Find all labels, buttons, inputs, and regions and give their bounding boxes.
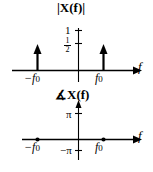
magnitude-impulse-negative-f0-arrowhead [34, 44, 42, 54]
magnitude-xtick-negative-f0-text: −f [24, 71, 35, 85]
magnitude-x-axis-label: f [138, 60, 142, 73]
magnitude-plot-graphics [0, 0, 153, 172]
magnitude-ytick-half-denominator: 2 [64, 46, 71, 54]
magnitude-impulse-positive-f0-arrowhead [100, 44, 108, 54]
magnitude-ytick-half-label: 1 2 [64, 37, 71, 55]
magnitude-ytick-one-label: 1 [65, 25, 71, 36]
phase-xtick-positive-f0-subscript: 0 [98, 143, 103, 153]
phase-title-text: ∡X(f) [55, 87, 89, 102]
phase-plot-title: ∡X(f) [55, 88, 89, 101]
magnitude-xtick-label-negative-f0: −f0 [24, 72, 40, 84]
phase-x-axis-label: f [138, 129, 142, 142]
magnitude-ytick-half-numerator: 1 [64, 37, 71, 45]
phase-xtick-label-negative-f0: −f0 [24, 141, 40, 153]
phase-xtick-label-positive-f0: f0 [95, 141, 103, 153]
magnitude-xtick-label-positive-f0: f0 [95, 72, 103, 84]
magnitude-xtick-positive-f0-subscript: 0 [98, 74, 103, 84]
phase-ytick-negative-pi-label: −π [60, 145, 72, 156]
phase-ytick-pi-label: π [66, 109, 72, 120]
spectrum-figure: |X(f)| 1 1 2 −f0 [0, 0, 153, 172]
phase-xtick-negative-f0-subscript: 0 [35, 143, 40, 153]
magnitude-xtick-negative-f0-subscript: 0 [35, 74, 40, 84]
phase-xtick-negative-f0-text: −f [24, 140, 35, 154]
